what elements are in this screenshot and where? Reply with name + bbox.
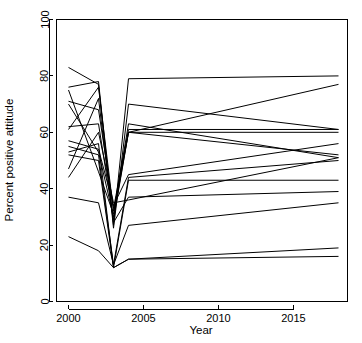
y-axis: 020406080100: [39, 10, 54, 304]
series-line-series-14: [69, 237, 339, 268]
line-chart-svg: 020406080100 2000200520102015 Year Perce…: [0, 0, 362, 343]
x-tick-label: 2015: [281, 312, 305, 324]
y-axis-title: Percent positive attitude: [3, 99, 15, 222]
series-line-series-1: [69, 67, 339, 228]
x-tick-label: 2010: [206, 312, 230, 324]
x-axis-title: Year: [189, 324, 212, 336]
y-tick-label: 0: [39, 298, 51, 304]
x-tick-label: 2005: [131, 312, 155, 324]
chart-container: 020406080100 2000200520102015 Year Perce…: [0, 0, 362, 343]
x-axis: 2000200520102015: [56, 305, 305, 324]
series-line-series-10: [69, 144, 339, 268]
y-tick-label: 60: [39, 126, 51, 138]
y-tick-label: 100: [39, 10, 51, 28]
y-tick-label: 80: [39, 70, 51, 82]
x-tick-label: 2000: [56, 312, 80, 324]
y-tick-label: 40: [39, 183, 51, 195]
series-line-series-11: [69, 98, 339, 222]
y-tick-label: 20: [39, 239, 51, 251]
series-lines: [69, 67, 339, 267]
